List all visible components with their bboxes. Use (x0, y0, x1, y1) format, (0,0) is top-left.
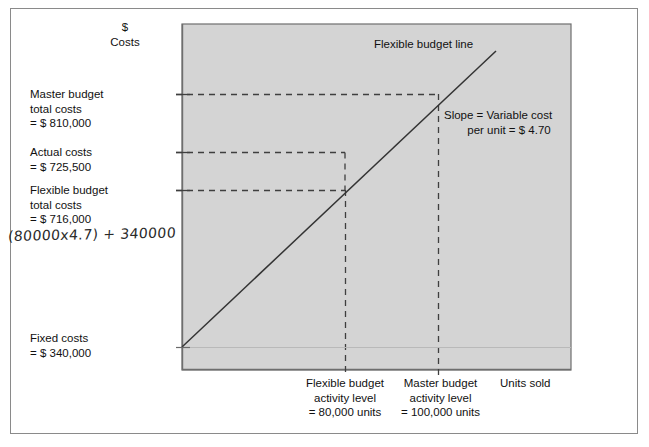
callout-slope-line2: per unit = $ 4.70 (444, 123, 574, 138)
callout-slope: Slope = Variable costper unit = $ 4.70 (444, 108, 574, 138)
label-fixed-costs: Fixed costs = $ 340,000 (30, 331, 175, 360)
label-master-budget-total-costs: Master budget total costs = $ 810,000 (30, 87, 175, 131)
callout-flexible-budget-line: Flexible budget line (374, 37, 504, 52)
y-axis-title-costs: Costs (110, 36, 139, 48)
plot-area-background (182, 24, 571, 370)
label-actual-costs: Actual costs = $ 725,500 (30, 145, 175, 174)
y-axis-title-currency: $ (122, 21, 128, 33)
x-label-flexible-activity-level: Flexible budget activity level = 80,000 … (290, 376, 400, 420)
x-label-master-activity-level: Master budget activity level = 100,000 u… (388, 376, 493, 420)
y-axis-title: $Costs (75, 20, 175, 49)
label-flexible-budget-total-costs: Flexible budget total costs = $ 716,000 (30, 183, 175, 227)
callout-slope-line1: Slope = Variable cost (444, 109, 552, 121)
x-axis-title: Units sold (500, 376, 600, 391)
